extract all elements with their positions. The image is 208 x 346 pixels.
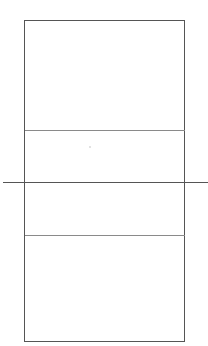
center-mark-dot: [89, 146, 91, 148]
outer-boundary: [24, 20, 185, 342]
center-line: [3, 182, 208, 183]
upper-divider-line: [25, 130, 185, 131]
lower-divider-line: [25, 235, 185, 236]
